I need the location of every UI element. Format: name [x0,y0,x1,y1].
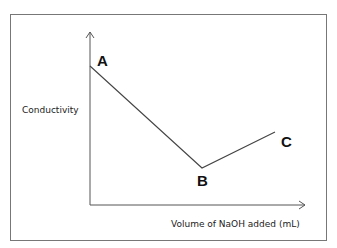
y-axis-label: Conductivity [22,105,79,115]
conductivity-chart: A B C Conductivity Volume of NaOH added … [0,0,337,248]
frame-border [11,15,327,241]
conductivity-curve [90,66,275,168]
point-label-a: A [97,52,108,69]
x-axis-label: Volume of NaOH added (mL) [171,219,300,229]
point-label-b: B [197,172,208,189]
point-label-c: C [281,133,292,150]
